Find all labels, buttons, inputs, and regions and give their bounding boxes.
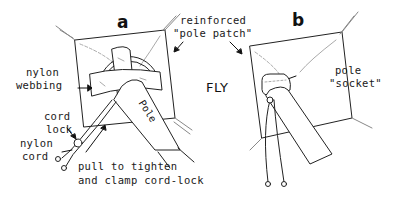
cord-lock-label-2: lock — [46, 123, 73, 135]
pole-socket-label-1: pole — [335, 64, 362, 76]
pull-instruction-1: pull to tighten — [78, 160, 177, 172]
tent-pole-attachment-diagram: a b reinforced "pole patch" nylon webbin… — [0, 0, 399, 200]
cord-lock-label-1: cord — [44, 110, 71, 122]
panel-a-pole — [114, 80, 194, 168]
annotation-arrows — [62, 42, 296, 152]
panel-b-socket — [262, 74, 332, 164]
nylon-cord-label-2: cord — [22, 150, 49, 162]
fly-label: FLY — [206, 80, 228, 95]
panel-b-label: b — [292, 10, 304, 30]
pull-instruction-2: and clamp cord-lock — [78, 174, 204, 186]
nylon-webbing-label-2: webbing — [16, 79, 62, 91]
nylon-cord-label-1: nylon — [20, 137, 53, 149]
reinforced-label: reinforced — [180, 14, 246, 26]
pole-patch-label: "pole patch" — [173, 27, 252, 39]
nylon-webbing-label-1: nylon — [26, 66, 59, 78]
pole-socket-label-2: "socket" — [329, 77, 382, 89]
panel-a-label: a — [117, 12, 128, 32]
